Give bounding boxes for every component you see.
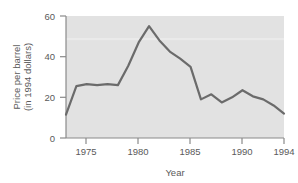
x-tick-label-1975: 1975	[75, 146, 96, 157]
y-tick-label-20: 20	[44, 92, 55, 103]
x-tick-label-1990: 1990	[231, 146, 252, 157]
x-axis-title: Year	[165, 167, 184, 178]
oil-price-line-chart: 0 20 40 60 1975 1980 1985 1990 1994 Year…	[0, 0, 298, 183]
y-tick-label-60: 60	[44, 11, 55, 22]
x-tick-label-1994: 1994	[273, 146, 294, 157]
plot-area-background	[66, 16, 284, 138]
y-axis-title-line1: Price per barrel	[11, 45, 22, 110]
y-tick-label-40: 40	[44, 51, 55, 62]
line-chart-figure: 0 20 40 60 1975 1980 1985 1990 1994 Year…	[0, 0, 298, 183]
y-axis-title-line2: (in 1994 dollars)	[22, 43, 33, 111]
x-tick-label-1985: 1985	[179, 146, 200, 157]
plot-light-band	[66, 38, 284, 40]
y-tick-label-0: 0	[50, 133, 55, 144]
x-tick-label-1980: 1980	[127, 146, 148, 157]
